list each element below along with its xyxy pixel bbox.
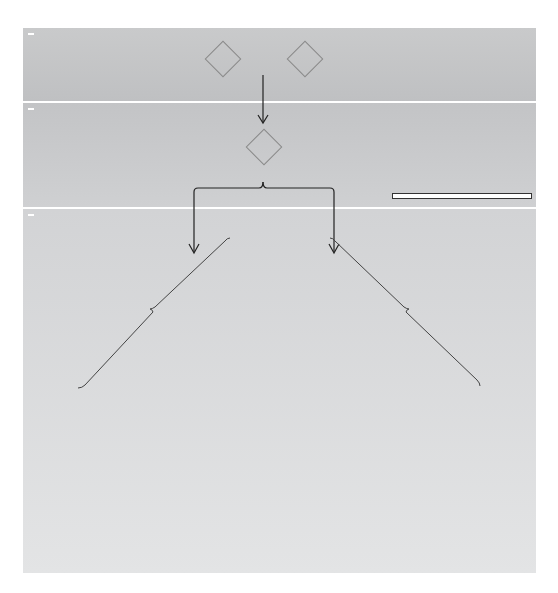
connector-lines — [0, 0, 558, 593]
